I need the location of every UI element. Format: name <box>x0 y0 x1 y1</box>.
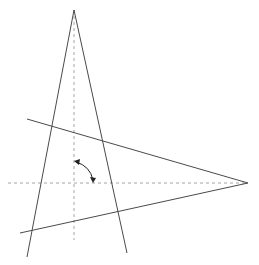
horizontal-triangle-upper-edge <box>27 119 248 183</box>
horizontal-triangle-lower-edge <box>20 183 248 233</box>
rotation-arrow-icon <box>74 159 96 183</box>
diagram-canvas <box>0 0 259 265</box>
vertical-triangle-left-edge <box>27 10 74 257</box>
vertical-triangle-right-edge <box>74 10 127 253</box>
